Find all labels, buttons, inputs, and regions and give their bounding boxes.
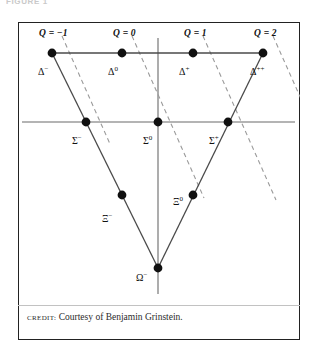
point-delta-minus[interactable] <box>48 49 57 58</box>
particle-label-sigma-plus: Σ+ <box>209 135 219 146</box>
credit-text: Courtesy of Benjamin Grinstein. <box>56 312 182 322</box>
charge-lines-group <box>62 36 300 200</box>
baryon-decuplet-diagram: Q = −1Q = 0Q = 1Q = 2Δ−Δ0Δ+Δ++Σ−Σ0Σ+Ξ−Ξ0… <box>18 22 300 305</box>
charge-label-2: Q = 1 <box>184 28 207 38</box>
particle-label-delta-plus-plus: Δ++ <box>250 66 264 77</box>
particle-label-xi-minus: Ξ− <box>102 213 112 224</box>
figure-page: FIGURE 1 Q = −1Q = 0Q = 1Q = 2Δ−Δ0Δ+Δ++Σ… <box>0 0 318 350</box>
charge-label-0: Q = −1 <box>39 28 68 38</box>
point-sigma-minus[interactable] <box>82 118 91 127</box>
triangle-edge-2 <box>52 53 158 268</box>
credit-label: CREDIT: <box>27 314 56 322</box>
triangle-edge-1 <box>158 53 263 268</box>
point-delta-plus-plus[interactable] <box>259 49 268 58</box>
charge-line-3 <box>273 36 300 128</box>
charge-line-0 <box>62 36 110 144</box>
point-xi-zero[interactable] <box>189 191 198 200</box>
credit-line: CREDIT: Courtesy of Benjamin Grinstein. <box>27 311 291 324</box>
charge-label-3: Q = 2 <box>254 28 277 38</box>
charge-label-1: Q = 0 <box>113 28 136 38</box>
charge-line-2 <box>203 36 276 200</box>
particle-label-delta-plus: Δ+ <box>179 66 189 77</box>
particle-label-xi-zero: Ξ0 <box>173 196 183 207</box>
point-omega-minus[interactable] <box>154 264 163 273</box>
point-sigma-plus[interactable] <box>224 118 233 127</box>
point-delta-zero[interactable] <box>118 49 127 58</box>
point-sigma-zero[interactable] <box>154 118 163 127</box>
charge-line-1 <box>132 36 204 198</box>
particle-label-delta-minus: Δ− <box>38 66 48 77</box>
point-delta-plus[interactable] <box>189 49 198 58</box>
particle-label-sigma-zero: Σ0 <box>143 135 152 146</box>
particle-label-omega-minus: Ω− <box>136 272 147 283</box>
credit-divider <box>18 305 300 306</box>
point-xi-minus[interactable] <box>118 191 127 200</box>
particle-label-delta-zero: Δ0 <box>108 66 118 77</box>
running-head: FIGURE 1 <box>6 0 126 6</box>
particle-label-sigma-minus: Σ− <box>72 135 82 146</box>
